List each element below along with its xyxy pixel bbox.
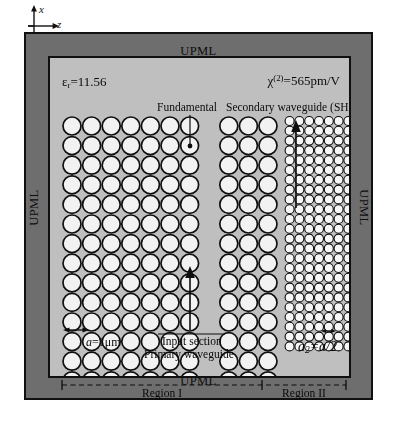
secondary-lattice-label: a2=a/2 [298, 339, 337, 355]
region-2-label: Region II [262, 387, 346, 399]
permittivity-label: εr=11.56 [62, 74, 107, 90]
primary-waveguide-label: Primary waveguide [144, 348, 234, 360]
chi-superscript: (2) [273, 73, 283, 83]
lattice-constant-label: a=1μm [86, 335, 121, 350]
lattice-constant-symbol: a [86, 335, 92, 349]
region-1-label: Region I [62, 387, 262, 399]
fundamental-label: Fundamental [157, 101, 217, 113]
lattice-constant-value: 1μm [99, 335, 121, 349]
secondary-waveguide-label: Secondary waveguide (SH) [226, 101, 351, 113]
computational-domain: εr=11.56 χ(2)=565pm/V Fundamental Second… [48, 56, 351, 378]
chi2-label: χ(2)=565pm/V [267, 73, 340, 89]
region-scale-bar: Region I Region II [48, 378, 351, 402]
axis-label-x: x [39, 3, 44, 15]
chi-value: 565pm/V [291, 73, 340, 88]
permittivity-value: 11.56 [78, 74, 107, 89]
axis-label-z: z [57, 18, 61, 30]
input-section-label: Input section [162, 335, 222, 347]
upml-label-left: UPML [27, 184, 42, 232]
figure-root: x z UPML UPML UPML UPML [0, 0, 397, 429]
secondary-lattice-symbol: a2 [298, 339, 310, 354]
permittivity-subscript: r [67, 80, 70, 90]
upml-label-right: UPML [356, 184, 371, 232]
secondary-lattice-value: a/2 [319, 339, 337, 354]
upml-boundary-frame: UPML UPML UPML UPML [24, 32, 373, 400]
